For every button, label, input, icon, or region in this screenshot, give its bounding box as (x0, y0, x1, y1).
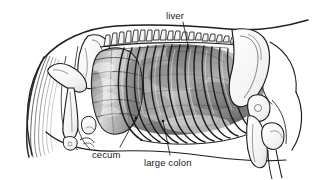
horse-anatomy-illustration (0, 0, 314, 180)
label-cecum: cecum (92, 150, 120, 160)
leader-dot-large-colon (162, 120, 165, 123)
label-large-colon: large colon (144, 158, 192, 168)
leader-dot-cecum (135, 117, 138, 120)
label-liver: liver (166, 11, 184, 21)
figure-container: liver cecum large colon (0, 0, 314, 180)
